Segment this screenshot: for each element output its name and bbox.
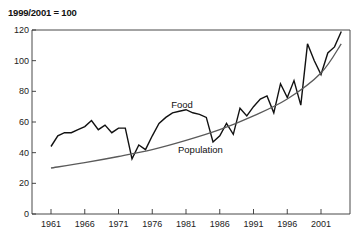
chart-axes: 0204060801001201961196619711976198119861… [14, 25, 350, 229]
population-label: Population [178, 144, 223, 155]
y-tick-label: 40 [19, 148, 29, 158]
x-tick-label: 1966 [75, 219, 95, 229]
y-tick-label: 80 [19, 86, 29, 96]
x-tick-label: 1991 [243, 219, 263, 229]
series-labels: FoodPopulation [171, 99, 223, 154]
y-tick-label: 60 [19, 117, 29, 127]
food-line [51, 32, 341, 159]
y-tick-label: 100 [14, 56, 29, 66]
x-tick-label: 1981 [176, 219, 196, 229]
x-tick-label: 2001 [311, 219, 331, 229]
x-tick-label: 1961 [41, 219, 61, 229]
x-tick-label: 1996 [277, 219, 297, 229]
y-tick-label: 0 [24, 209, 29, 219]
y-tick-label: 20 [19, 178, 29, 188]
plot-frame [32, 30, 350, 214]
x-tick-label: 1976 [142, 219, 162, 229]
food-label: Food [171, 99, 193, 110]
x-tick-label: 1971 [108, 219, 128, 229]
line-chart: 0204060801001201961196619711976198119861… [0, 0, 362, 236]
y-tick-label: 120 [14, 25, 29, 35]
x-tick-label: 1986 [210, 219, 230, 229]
